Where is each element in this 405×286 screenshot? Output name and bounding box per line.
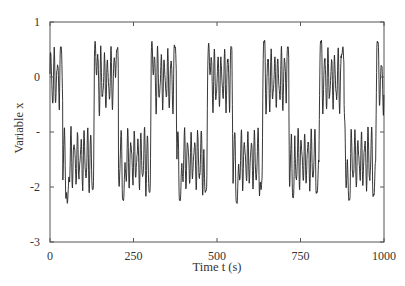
y-tick-label: - [36, 125, 40, 139]
x-tick-label: 1000 [372, 249, 396, 263]
y-tick-label: -3 [30, 235, 40, 249]
y-tick-label: 0 [34, 70, 40, 84]
x-tick-label: 750 [292, 249, 310, 263]
y-axis-title: Variable x [12, 102, 26, 154]
y-tick-label: 1 [34, 15, 40, 29]
chart: 02505007501000 10--2-3 Time t (s) Variab… [0, 0, 405, 286]
series-layer [50, 40, 384, 203]
x-tick-label: 250 [125, 249, 143, 263]
x-axis-title: Time t (s) [193, 260, 242, 274]
x-tick-label: 0 [47, 249, 53, 263]
series-line-x [50, 40, 384, 203]
y-tick-label: -2 [30, 180, 40, 194]
